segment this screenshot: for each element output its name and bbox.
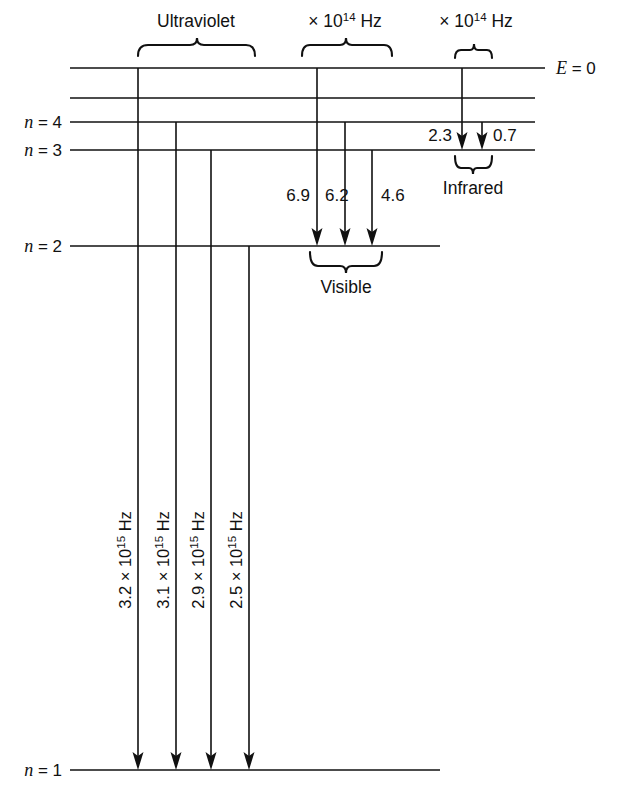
visible-value-3: 4.6 xyxy=(381,186,405,205)
infrared-brace-bottom xyxy=(455,156,492,174)
visible-brace-bottom xyxy=(310,252,382,273)
infrared-band-label: Infrared xyxy=(443,178,503,198)
level-label-n2: n = 2 xyxy=(24,236,62,256)
ultraviolet-header-label: Ultraviolet xyxy=(157,11,235,31)
level-label-E0: E = 0 xyxy=(555,58,596,78)
band-headers: Ultraviolet × 1014 Hz × 1014 Hz xyxy=(157,11,513,31)
visible-header-label: × 1014 Hz xyxy=(308,11,382,31)
infrared-value-2: 0.7 xyxy=(493,126,517,145)
energy-level-diagram: n = 4 n = 3 n = 2 n = 1 E = 0 Ultraviole… xyxy=(0,0,621,788)
uv-label-4: 2.5 × 1015 Hz xyxy=(226,511,245,609)
diagram-canvas: n = 4 n = 3 n = 2 n = 1 E = 0 Ultraviole… xyxy=(0,0,621,788)
level-label-n3: n = 3 xyxy=(24,140,62,160)
uv-label-2: 3.1 × 1015 Hz xyxy=(153,511,172,609)
ultraviolet-labels: 3.2 × 1015 Hz 3.1 × 1015 Hz 2.9 × 1015 H… xyxy=(115,511,245,609)
infrared-value-1: 2.3 xyxy=(428,126,452,145)
uv-label-1: 3.2 × 1015 Hz xyxy=(115,511,134,609)
level-label-n1: n = 1 xyxy=(24,760,62,780)
visible-transitions: 6.9 6.2 4.6 xyxy=(286,68,404,246)
infrared-header-label: × 1014 Hz xyxy=(439,11,513,31)
visible-value-2: 6.2 xyxy=(325,186,349,205)
level-labels: n = 4 n = 3 n = 2 n = 1 E = 0 xyxy=(24,58,596,780)
infrared-brace-top xyxy=(455,44,492,58)
visible-value-1: 6.9 xyxy=(286,186,310,205)
top-braces xyxy=(138,38,492,58)
ultraviolet-transitions xyxy=(133,68,255,770)
bottom-braces: Visible Infrared xyxy=(310,156,503,297)
uv-label-3: 2.9 × 1015 Hz xyxy=(188,511,207,609)
level-label-n4: n = 4 xyxy=(24,112,62,132)
infrared-transitions: 2.3 0.7 xyxy=(428,68,516,150)
visible-band-label: Visible xyxy=(320,277,371,297)
ultraviolet-brace xyxy=(138,38,255,56)
visible-brace-top xyxy=(302,38,392,56)
